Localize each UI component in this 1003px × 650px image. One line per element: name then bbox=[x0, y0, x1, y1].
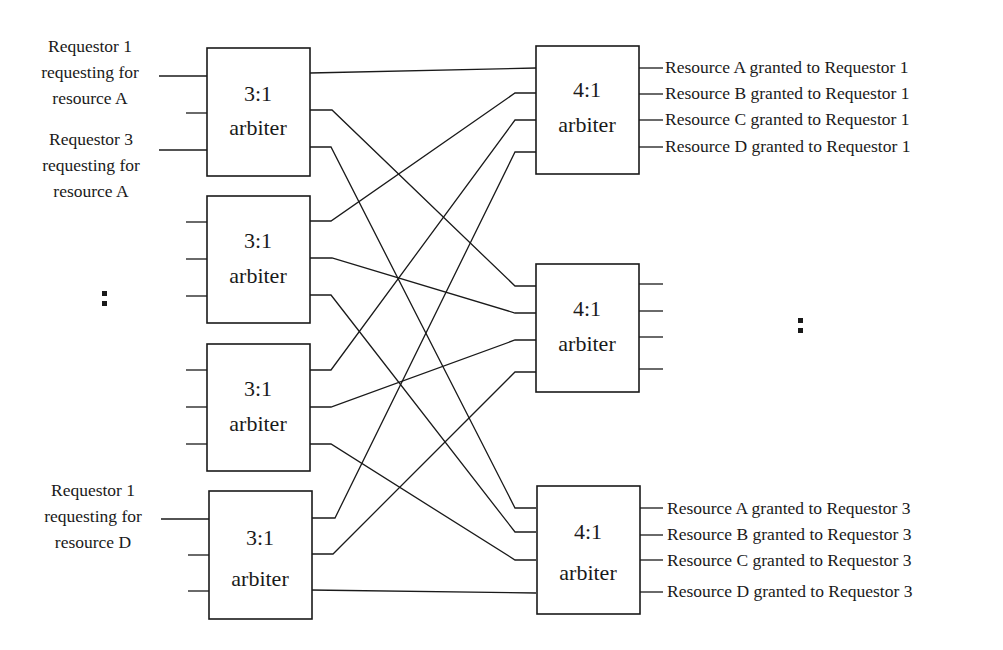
arbiter-ratio: 3:1 bbox=[244, 81, 272, 106]
output-label: Resource B granted to Requestor 1 bbox=[665, 83, 909, 103]
svg-text:requesting for: requesting for bbox=[44, 506, 142, 526]
arbiter-4to1-2: 4:1 arbiter bbox=[536, 264, 639, 392]
svg-text:requesting for: requesting for bbox=[42, 155, 140, 175]
arbiter-3to1-3: 3:1 arbiter bbox=[207, 344, 310, 471]
arbiter-4to1-3: 4:1 arbiter bbox=[537, 486, 640, 614]
output-stubs bbox=[639, 68, 663, 592]
arbiter-ratio: 4:1 bbox=[573, 77, 601, 102]
input-label-requestor1-resource-d: Requestor 1 requesting for resource D bbox=[44, 480, 142, 552]
arbiter-ratio: 3:1 bbox=[244, 376, 272, 401]
svg-text:requesting for: requesting for bbox=[41, 62, 139, 82]
arbiter-ratio: 4:1 bbox=[574, 519, 602, 544]
arbiter-3to1-4: 3:1 arbiter bbox=[209, 491, 312, 619]
arbiter-name: arbiter bbox=[559, 560, 617, 585]
svg-text:resource A: resource A bbox=[52, 88, 128, 108]
arbiter-3to1-1: 3:1 arbiter bbox=[207, 48, 310, 176]
input-stubs bbox=[159, 76, 209, 591]
output-labels-requestor3: Resource A granted to Requestor 3 Resour… bbox=[667, 498, 913, 601]
wire-a2-o1-to-b1-i2 bbox=[310, 93, 536, 221]
output-label: Resource A granted to Requestor 1 bbox=[665, 57, 909, 77]
input-label-requestor3-resource-a: Requestor 3 requesting for resource A bbox=[42, 129, 140, 201]
output-label: Resource C granted to Requestor 3 bbox=[667, 550, 912, 570]
arbiter-name: arbiter bbox=[229, 263, 287, 288]
output-label: Resource B granted to Requestor 3 bbox=[667, 524, 912, 544]
output-label: Resource C granted to Requestor 1 bbox=[665, 109, 909, 129]
svg-text:resource A: resource A bbox=[53, 181, 129, 201]
output-label: Resource A granted to Requestor 3 bbox=[667, 498, 911, 518]
svg-text:resource D: resource D bbox=[55, 532, 131, 552]
arbiter-network-diagram: 3:1 arbiter 3:1 arbiter 3:1 arbiter 3:1 … bbox=[0, 0, 1003, 650]
arbiter-name: arbiter bbox=[229, 115, 287, 140]
input-label-requestor1-resource-a: Requestor 1 requesting for resource A bbox=[41, 36, 139, 108]
interconnect-wires bbox=[310, 68, 536, 593]
svg-text:Requestor 3: Requestor 3 bbox=[49, 129, 133, 149]
wire-a1-o3-to-b3-i1 bbox=[310, 147, 536, 508]
arbiter-ratio: 4:1 bbox=[573, 296, 601, 321]
wire-a1-o2-to-b2-i1 bbox=[310, 110, 536, 286]
svg-text:Requestor 1: Requestor 1 bbox=[48, 36, 132, 56]
arbiter-name: arbiter bbox=[558, 331, 616, 356]
ellipsis-right bbox=[798, 318, 803, 333]
arbiter-ratio: 3:1 bbox=[244, 228, 272, 253]
wire-a2-o2-to-b2-i2 bbox=[310, 258, 536, 313]
wire-a3-o2-to-b2-i3 bbox=[310, 340, 536, 407]
arbiter-4to1-1: 4:1 arbiter bbox=[536, 46, 639, 174]
ellipsis-left bbox=[102, 291, 107, 306]
output-label: Resource D granted to Requestor 3 bbox=[667, 581, 913, 601]
arbiter-name: arbiter bbox=[229, 411, 287, 436]
wire-a2-o3-to-b3-i2 bbox=[310, 295, 536, 532]
arbiter-3to1-2: 3:1 arbiter bbox=[207, 196, 310, 323]
wire-a1-o1-to-b1-i1 bbox=[310, 68, 536, 73]
output-label: Resource D granted to Requestor 1 bbox=[665, 136, 910, 156]
output-labels-requestor1: Resource A granted to Requestor 1 Resour… bbox=[665, 57, 910, 156]
arbiter-name: arbiter bbox=[231, 566, 289, 591]
arbiter-ratio: 3:1 bbox=[246, 525, 274, 550]
wire-a4-o3-to-b3-i4 bbox=[310, 590, 536, 593]
wire-a4-o2-to-b2-i4 bbox=[310, 372, 536, 554]
svg-text:Requestor 1: Requestor 1 bbox=[51, 480, 135, 500]
arbiter-name: arbiter bbox=[558, 112, 616, 137]
